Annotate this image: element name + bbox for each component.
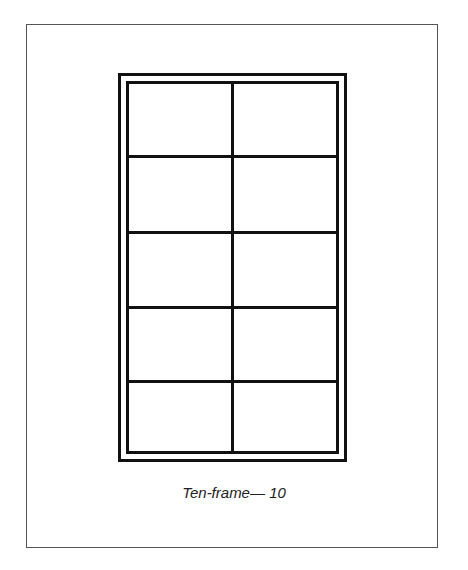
grid-row-divider-1 (126, 155, 339, 158)
grid-column-divider (231, 81, 234, 454)
grid-row-divider-4 (126, 380, 339, 383)
grid-row-divider-3 (126, 306, 339, 309)
caption: Ten-frame— 10 (0, 484, 468, 501)
grid-row-divider-2 (126, 231, 339, 234)
